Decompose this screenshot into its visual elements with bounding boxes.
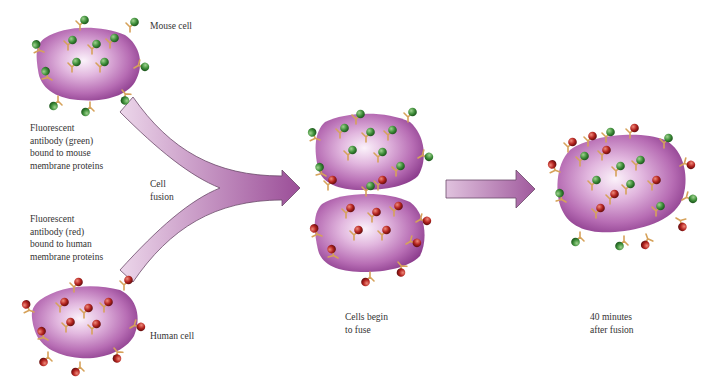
fusing-cells xyxy=(305,108,435,287)
human-cell xyxy=(19,276,147,377)
cell-fusion-diagram: Mouse cell Fluorescent antibody (green) … xyxy=(0,0,701,381)
cells-begin-label: Cells begin to fuse xyxy=(345,311,388,336)
time-arrow xyxy=(446,170,535,208)
human-cell-label: Human cell xyxy=(150,330,194,343)
cell-fusion-label: Cell fusion xyxy=(150,178,174,203)
after-fusion-label: 40 minutes after fusion xyxy=(590,311,634,336)
cell-fusion-arrow xyxy=(120,97,300,282)
green-antibody-label: Fluorescent antibody (green) bound to mo… xyxy=(30,122,103,172)
mouse-cell-label: Mouse cell xyxy=(150,20,192,33)
red-antibody-label: Fluorescent antibody (red) bound to huma… xyxy=(30,213,103,263)
fused-cell xyxy=(545,124,699,251)
